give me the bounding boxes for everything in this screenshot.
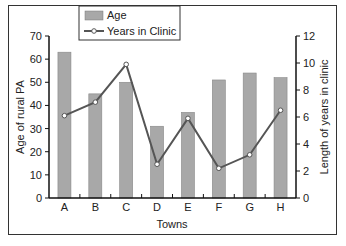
x-axis-label: Towns [156,218,188,230]
combo-chart: 010203040506070024681012ABCDEFGH Age Yea… [0,0,346,246]
years-marker [155,162,160,167]
years-marker [278,108,283,113]
age-bar [58,52,71,198]
years-marker [217,166,222,171]
years-marker [62,113,67,118]
legend-years-label: Years in Clinic [107,25,177,37]
years-marker [93,100,98,105]
age-bar [274,78,287,198]
x-tick-label: D [153,201,161,213]
y2-tick-label: 2 [303,165,309,177]
legend-age-swatch [85,11,103,20]
legend-years-marker-icon [92,29,97,34]
y2-axis-label: Length of years in clinic [318,59,330,174]
age-bar [243,73,256,198]
y-tick-label: 70 [30,30,42,42]
y2-tick-label: 0 [303,192,309,204]
y-tick-label: 0 [36,192,42,204]
y2-tick-label: 6 [303,111,309,123]
x-tick-label: A [61,201,69,213]
x-tick-label: E [184,201,191,213]
years-marker [186,116,191,121]
age-bars [58,52,287,198]
y-tick-label: 30 [30,123,42,135]
x-tick-label: C [122,201,130,213]
y2-tick-label: 12 [303,30,315,42]
y-tick-label: 20 [30,146,42,158]
y-tick-label: 10 [30,169,42,181]
x-tick-label: G [245,201,254,213]
x-tick-label: H [277,201,285,213]
y2-tick-label: 8 [303,84,309,96]
x-tick-label: F [215,201,222,213]
age-bar [89,94,102,198]
y-tick-label: 60 [30,53,42,65]
y-tick-label: 50 [30,76,42,88]
age-bar [120,82,133,198]
legend: Age Years in Clinic [79,6,180,40]
legend-age-label: Age [107,9,127,21]
years-marker [124,62,129,67]
y2-tick-label: 10 [303,57,315,69]
years-marker [247,153,252,158]
y-axis-label: Age of rural PA [14,79,26,153]
y-tick-label: 40 [30,99,42,111]
y2-tick-label: 4 [303,138,309,150]
x-tick-label: B [92,201,99,213]
age-bar [212,80,225,198]
